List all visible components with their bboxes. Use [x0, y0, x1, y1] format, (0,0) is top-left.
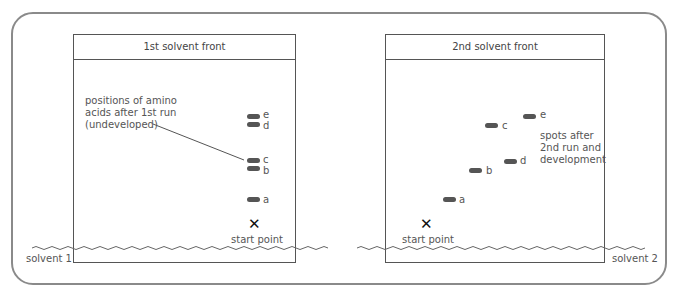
left-annotation-leader-line [153, 124, 244, 160]
solvent-2-wavy-line [357, 247, 645, 250]
diagram-lines [0, 0, 675, 294]
solvent-1-wavy-line [32, 247, 328, 250]
